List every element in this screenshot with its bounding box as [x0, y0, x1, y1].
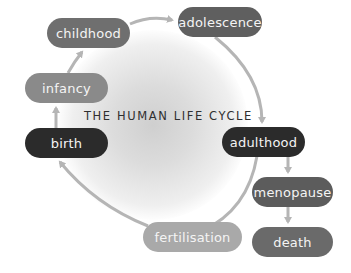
node-label: childhood [56, 26, 121, 41]
arrow-fertilisation-birth [60, 162, 148, 226]
node-label: adolescence [178, 15, 261, 30]
node-label: death [273, 235, 312, 250]
node-label: fertilisation [154, 230, 230, 245]
arrow-adulthood-fertilisation [202, 156, 257, 231]
arrow-childhood-adolescence [130, 18, 172, 24]
arrow-infancy-childhood [68, 52, 82, 73]
node-childhood: childhood [47, 18, 130, 48]
node-label: infancy [42, 81, 91, 96]
node-label: birth [51, 136, 83, 151]
node-label: menopause [254, 185, 332, 200]
node-infancy: infancy [25, 73, 108, 103]
node-death: death [252, 227, 333, 257]
diagram-title: THE HUMAN LIFE CYCLE [84, 109, 253, 123]
node-adolescence: adolescence [178, 7, 262, 37]
node-adulthood: adulthood [222, 127, 305, 157]
node-menopause: menopause [252, 177, 333, 207]
node-birth: birth [25, 128, 108, 158]
node-fertilisation: fertilisation [143, 222, 242, 252]
node-label: adulthood [230, 135, 297, 150]
